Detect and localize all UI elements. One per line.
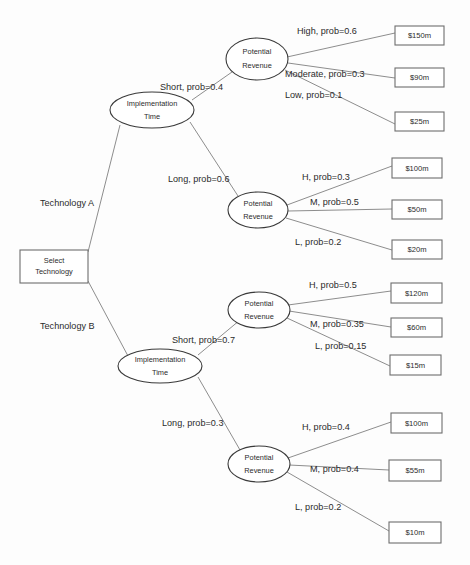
potential-revenue-1-ellipse[interactable] [226, 38, 288, 80]
potential-revenue-4-label-line1: Potential [245, 453, 274, 462]
outcome-node-120m[interactable]: $120m [391, 283, 442, 303]
potential-revenue-2-label-line1: Potential [244, 199, 273, 208]
edge-label-r1-low: Low, prob=0.1 [285, 90, 342, 100]
node-implementation-time-b[interactable]: Implementation Time [118, 349, 202, 383]
outcome-node-60m[interactable]: $60m [391, 318, 442, 337]
edge-label-r4-l: L, prob=0.2 [295, 502, 341, 512]
edge-label-r3-l: L, prob=0.15 [315, 341, 366, 351]
outcome-node-20m[interactable]: $20m [392, 240, 442, 259]
node-select-technology[interactable]: Select Technology [20, 250, 88, 283]
potential-revenue-3-label-line1: Potential [245, 299, 274, 308]
edge-label-r1-moderate: Moderate, prob=0.3 [285, 69, 365, 79]
outcome-label-50m: $50m [408, 205, 427, 214]
outcome-node-50m[interactable]: $50m [392, 200, 442, 219]
outcome-label-10m: $10m [406, 528, 425, 537]
node-implementation-time-a[interactable]: Implementation Time [110, 92, 194, 128]
potential-revenue-3-ellipse[interactable] [228, 292, 290, 328]
outcome-label-20m: $20m [408, 245, 427, 254]
select-technology-label-line1: Select [44, 256, 65, 265]
branch-label-technology-a: Technology A [40, 198, 95, 208]
edge-label-r3-h: H, prob=0.5 [309, 280, 357, 290]
outcome-label-15m: $15m [406, 361, 425, 370]
implementation-time-b-label-line2: Time [152, 368, 168, 377]
outcome-label-25m: $25m [410, 117, 429, 126]
potential-revenue-2-ellipse[interactable] [228, 192, 288, 228]
outcome-node-55m[interactable]: $55m [389, 460, 441, 481]
outcome-node-150m[interactable]: $150m [395, 26, 444, 45]
edge-label-b-long: Long, prob=0.3 [162, 418, 223, 428]
outcome-label-150m: $150m [408, 31, 431, 40]
edge-label-b-short: Short, prob=0.7 [172, 335, 235, 345]
outcome-node-10m[interactable]: $10m [389, 522, 441, 543]
outcome-node-100m-b[interactable]: $100m [391, 413, 442, 433]
node-potential-revenue-4[interactable]: Potential Revenue [228, 446, 290, 482]
edge-label-a-short: Short, prob=0.4 [160, 82, 223, 92]
edge-label-r4-m: M, prob=0.4 [310, 464, 359, 474]
edge-root-to-impl-a [88, 125, 120, 252]
potential-revenue-4-label-line2: Revenue [244, 466, 274, 475]
outcome-label-120m: $120m [405, 289, 428, 298]
potential-revenue-1-label-line2: Revenue [242, 61, 272, 70]
edge-label-r3-m: M, prob=0.35 [310, 319, 364, 329]
potential-revenue-1-label-line1: Potential [243, 47, 272, 56]
edge-label-r1-high: High, prob=0.6 [297, 26, 357, 36]
potential-revenue-4-ellipse[interactable] [228, 446, 290, 482]
select-technology-label-line2: Technology [35, 267, 73, 276]
edge-r3-h [288, 291, 391, 305]
outcome-label-60m: $60m [407, 323, 426, 332]
edge-label-r2-m: M, prob=0.5 [310, 197, 359, 207]
outcome-label-90m: $90m [410, 73, 429, 82]
outcome-label-55m: $55m [406, 466, 425, 475]
branch-label-technology-b: Technology B [40, 321, 95, 331]
decision-tree-diagram: Select Technology Technology A Technolog… [0, 0, 470, 565]
edge-label-r2-h: H, prob=0.3 [302, 172, 350, 182]
potential-revenue-3-label-line2: Revenue [244, 312, 274, 321]
implementation-time-a-label-line2: Time [144, 112, 160, 121]
edge-label-r4-h: H, prob=0.4 [302, 422, 350, 432]
outcome-label-100m-b: $100m [405, 419, 428, 428]
node-potential-revenue-2[interactable]: Potential Revenue [228, 192, 288, 228]
edge-impl-b-long [198, 377, 240, 450]
outcome-node-90m[interactable]: $90m [395, 68, 444, 87]
potential-revenue-2-label-line2: Revenue [243, 212, 273, 221]
implementation-time-b-label-line1: Implementation [135, 355, 186, 364]
outcome-node-15m[interactable]: $15m [390, 355, 441, 375]
implementation-time-a-label-line1: Implementation [127, 99, 178, 108]
edge-root-to-impl-b [88, 281, 128, 356]
edge-impl-a-long [190, 122, 238, 196]
node-potential-revenue-1[interactable]: Potential Revenue [226, 38, 288, 80]
outcome-label-100m-a: $100m [405, 164, 428, 173]
outcome-node-100m-a[interactable]: $100m [392, 158, 442, 178]
edge-r2-m [288, 209, 392, 211]
node-potential-revenue-3[interactable]: Potential Revenue [228, 292, 290, 328]
outcome-node-25m[interactable]: $25m [395, 112, 444, 131]
edge-label-r2-l: L, prob=0.2 [295, 237, 341, 247]
edge-r1-high [287, 33, 395, 57]
edge-label-a-long: Long, prob=0.6 [168, 174, 229, 184]
implementation-time-a-ellipse[interactable] [110, 92, 194, 128]
